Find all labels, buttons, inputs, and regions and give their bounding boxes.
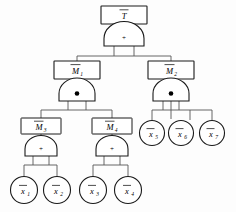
basic-event-x3[interactable]: x 3 [80,177,107,204]
or-gate-m4[interactable]: + [96,136,128,157]
intermediate-event-box-m3[interactable]: M 3 [21,118,61,134]
m2-label: M [165,66,174,76]
x2-subscript: 2 [60,191,63,197]
m4-label: M [105,122,114,132]
x3-subscript: 3 [95,191,99,197]
and-gate-dot-icon [169,91,174,96]
basic-event-x2[interactable]: x 2 [44,177,71,204]
or-gate-top-event[interactable]: + [104,22,144,47]
x6-label: x [177,129,182,139]
and-gate-m1[interactable] [59,78,95,101]
x5-label: x [148,129,153,139]
and-gate-dot-icon [75,91,80,96]
x1-label: x [20,186,25,196]
x4-label: x [124,186,129,196]
m2-subscript: 2 [174,71,177,77]
x1-subscript: 1 [27,191,30,197]
m3-subscript: 3 [43,127,47,133]
basic-event-x1[interactable]: x 1 [11,177,38,204]
or-gate-symbol: + [110,145,114,153]
basic-event-x6[interactable]: x 6 [169,121,194,146]
intermediate-event-box-m2[interactable]: M 2 [148,61,194,79]
or-gate-m3[interactable]: + [25,136,57,157]
m3-label: M [34,122,43,132]
intermediate-event-box-m4[interactable]: M 4 [92,118,132,134]
basic-event-x4[interactable]: x 4 [115,177,142,204]
x7-label: x [208,129,213,139]
intermediate-event-box-m1[interactable]: M 1 [54,61,100,79]
x7-subscript: 7 [215,134,218,140]
x5-subscript: 5 [155,134,158,140]
x3-label: x [89,186,94,196]
x6-subscript: 6 [184,134,187,140]
x2-label: x [53,186,58,196]
m1-label: M [71,66,80,76]
basic-event-x5[interactable]: x 5 [140,121,165,146]
or-gate-symbol: + [39,145,43,153]
m4-subscript: 4 [115,127,118,133]
m1-subscript: 1 [80,71,83,77]
fault-tree-diagram: T + M 1 M 2 M 3 + [0,0,236,212]
or-gate-symbol: + [122,34,126,42]
basic-event-x7[interactable]: x 7 [200,121,225,146]
and-gate-m2[interactable] [153,78,189,101]
x4-subscript: 4 [131,191,134,197]
